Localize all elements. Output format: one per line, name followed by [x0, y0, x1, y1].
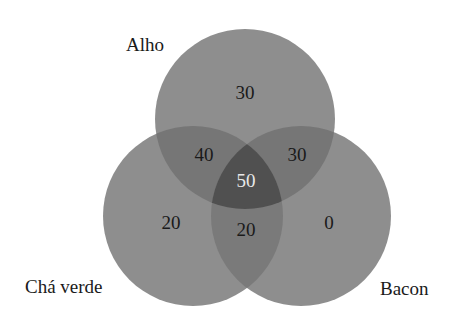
- value-cha-verde-only: 20: [162, 212, 181, 233]
- value-alho-bacon: 30: [288, 144, 307, 165]
- value-alho-only: 30: [236, 82, 255, 103]
- label-alho: Alho: [126, 34, 164, 55]
- value-alho-cha-verde: 40: [195, 144, 214, 165]
- venn-diagram: Alho Chá verde Bacon 30 40 30 50 20 20 0: [0, 0, 467, 322]
- label-bacon: Bacon: [380, 278, 429, 299]
- value-cha-verde-bacon: 20: [237, 219, 256, 240]
- label-cha-verde: Chá verde: [25, 276, 103, 297]
- value-all-three: 50: [237, 170, 256, 191]
- value-bacon-only: 0: [324, 212, 334, 233]
